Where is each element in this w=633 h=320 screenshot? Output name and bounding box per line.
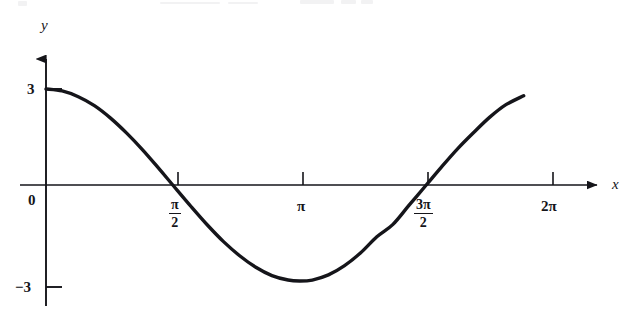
x-tick-label-2pi: 2π <box>541 199 557 214</box>
fraction-numerator: 3π <box>414 197 433 214</box>
x-tick-label-pi-over-2: π 2 <box>169 197 181 230</box>
y-tick-label-minus-3: −3 <box>15 280 31 295</box>
fraction-numerator: π <box>169 197 181 214</box>
x-tick-label-3pi-over-2: 3π 2 <box>414 197 433 230</box>
plot-canvas <box>0 0 633 320</box>
x-axis-label: x <box>612 177 619 192</box>
fraction-denominator: 2 <box>414 214 433 230</box>
x-tick-label-pi: π <box>297 199 305 214</box>
fraction-denominator: 2 <box>169 214 181 230</box>
y-axis-label: y <box>41 18 48 33</box>
graph-figure: y x 3 −3 0 π 2 π 3π 2 2π <box>0 0 633 320</box>
origin-label: 0 <box>28 193 36 208</box>
y-tick-label-3: 3 <box>27 82 35 97</box>
